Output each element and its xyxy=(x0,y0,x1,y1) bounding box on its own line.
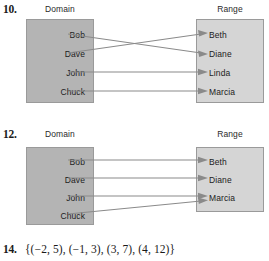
mapping-diagram-10: Domain Range Bob Dave John Chuck Beth Di… xyxy=(0,0,269,120)
edge-chuck-marcia-12 xyxy=(68,198,208,214)
mapping-diagram-12: Domain Range Bob Dave John Chuck Beth Di… xyxy=(0,125,269,237)
edge-bob-beth xyxy=(68,157,208,163)
exercise-page: 10. Domain Range Bob Dave John Chuck Bet… xyxy=(0,0,269,261)
edge-john-linda xyxy=(68,69,208,75)
edge-bob-diane xyxy=(68,34,208,57)
mapping-edges-10 xyxy=(0,0,269,120)
edge-john-marcia xyxy=(68,193,208,199)
edge-dave-beth xyxy=(68,30,208,53)
mapping-edges-12 xyxy=(0,125,269,237)
edge-chuck-marcia xyxy=(68,88,208,94)
exercise-number-14: 14. xyxy=(3,243,17,255)
exercise-14-set-notation: {(−2, 5), (−1, 3), (3, 7), (4, 12)} xyxy=(25,243,175,255)
edge-dave-diane xyxy=(68,175,208,181)
